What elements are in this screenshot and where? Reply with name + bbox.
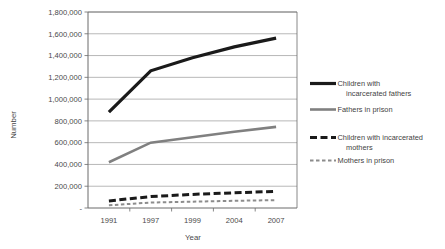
- y-axis-title: Number: [9, 111, 18, 139]
- y-axis-tick-label: 1,600,000: [48, 30, 82, 39]
- series-line-3: [109, 200, 276, 205]
- y-axis-tick-label: 200,000: [55, 182, 82, 191]
- legend-label-1: Fathers in prison: [338, 105, 393, 114]
- series-line-1: [109, 127, 276, 162]
- x-axis-tick-label: 1997: [142, 216, 159, 225]
- y-axis-tick-label: 1,000,000: [48, 95, 82, 104]
- x-axis-tick-label: 2007: [268, 216, 285, 225]
- legend-label-2: Children with incarcerated: [338, 133, 423, 142]
- line-chart: -200,000400,000600,000800,0001,000,0001,…: [0, 0, 445, 249]
- y-axis-tick-label: -: [79, 204, 82, 213]
- y-axis-tick-label: 1,800,000: [48, 8, 82, 17]
- x-axis-ticks: [130, 208, 255, 212]
- y-axis-tick-label: 400,000: [55, 160, 82, 169]
- x-axis-tick-label: 1999: [184, 216, 201, 225]
- series-line-0: [109, 38, 276, 112]
- legend-label-2-line2: mothers: [346, 143, 373, 152]
- x-axis-title: Year: [185, 233, 201, 242]
- x-axis-tick-labels: 19911997199920042007: [100, 216, 284, 225]
- data-series-layer: [109, 38, 276, 205]
- legend-label-0: Children with: [338, 79, 381, 88]
- y-axis-tick-label: 1,200,000: [48, 73, 82, 82]
- y-axis-tick-labels: -200,000400,000600,000800,0001,000,0001,…: [48, 8, 82, 213]
- y-axis-tick-label: 800,000: [55, 117, 82, 126]
- x-axis-tick-label: 2004: [226, 216, 243, 225]
- chart-canvas: -200,000400,000600,000800,0001,000,0001,…: [0, 0, 445, 249]
- legend-label-3: Mothers in prison: [338, 156, 395, 165]
- series-line-2: [109, 191, 276, 200]
- y-axis-tick-label: 1,400,000: [48, 51, 82, 60]
- x-axis-tick-label: 1991: [100, 216, 117, 225]
- y-axis-tick-label: 600,000: [55, 138, 82, 147]
- legend-label-0-line2: incarcerated fathers: [346, 89, 412, 98]
- chart-legend: Children withincarcerated fathersFathers…: [310, 79, 423, 165]
